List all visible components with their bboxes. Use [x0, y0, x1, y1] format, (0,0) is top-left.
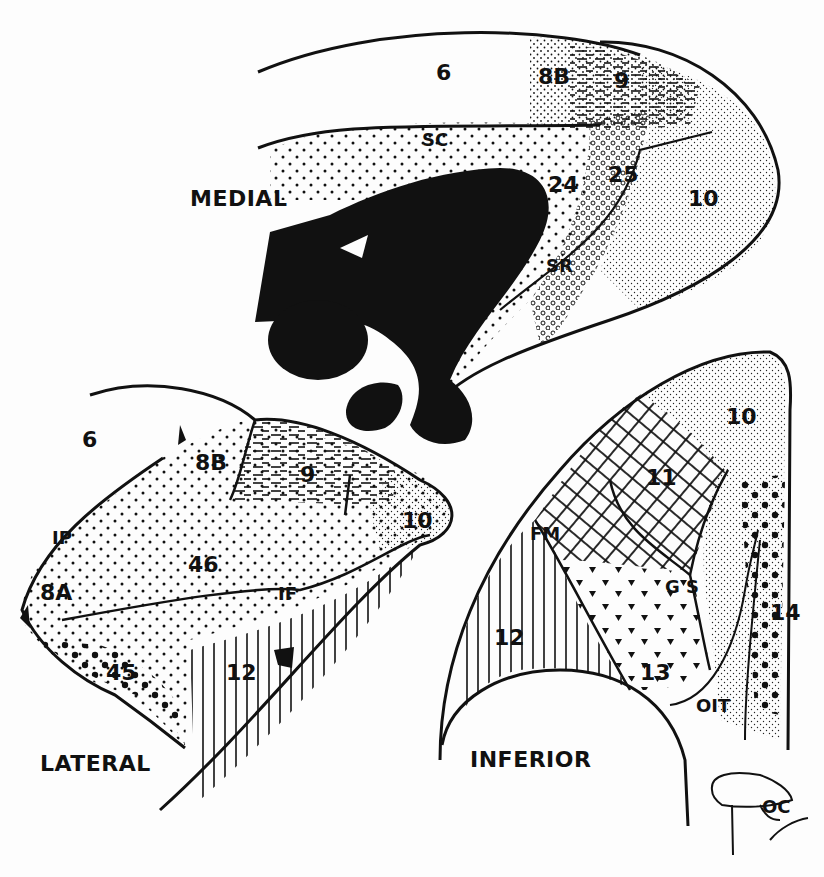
- view-label-inferior: INFERIOR: [470, 747, 591, 772]
- label-area-12-inferior: 12: [494, 625, 525, 650]
- label-sulcus-sr: SR: [546, 255, 573, 276]
- label-area-46-lateral: 46: [188, 552, 219, 577]
- brain-areas-diagram: 6 8B 9 24 25 10 SC SR MEDIAL 6 8B 9 10 8…: [0, 0, 824, 877]
- label-area-10-medial: 10: [688, 186, 719, 211]
- label-area-24-medial: 24: [548, 172, 579, 197]
- label-sulcus-if: IF: [278, 583, 297, 604]
- label-area-14-inferior: 14: [770, 600, 801, 625]
- view-label-medial: MEDIAL: [190, 186, 287, 211]
- label-area-8b-medial: 8B: [538, 64, 570, 89]
- label-sulcus-oit: OIT: [696, 695, 731, 716]
- label-sulcus-fm: FM: [530, 523, 560, 544]
- optic-region: [346, 382, 402, 431]
- view-label-lateral: LATERAL: [40, 751, 151, 776]
- label-area-10-lateral: 10: [402, 508, 433, 533]
- label-sulcus-gs: G S: [665, 576, 699, 597]
- label-optic-chiasm: OC: [762, 796, 791, 817]
- label-area-9-medial: 9: [614, 68, 629, 93]
- lateral-view: 6 8B 9 10 8A 46 45 12 IP IF LATERAL: [20, 386, 452, 810]
- anterior-commissure: [268, 300, 368, 380]
- label-area-11-inferior: 11: [646, 465, 677, 490]
- label-area-10-inferior: 10: [726, 404, 757, 429]
- label-area-6-medial: 6: [436, 60, 451, 85]
- label-area-45-lateral: 45: [106, 660, 137, 685]
- label-area-12-lateral: 12: [226, 660, 257, 685]
- label-area-9-lateral: 9: [300, 462, 315, 487]
- label-area-8a-lateral: 8A: [40, 580, 72, 605]
- label-sulcus-ip: IP: [52, 527, 72, 548]
- label-area-6-lateral: 6: [82, 427, 97, 452]
- label-area-13-inferior: 13: [640, 660, 671, 685]
- label-area-25-medial: 25: [608, 162, 639, 187]
- label-sulcus-sc: SC: [422, 129, 448, 150]
- inferior-view: 10 11 12 13 14 FM G S OIT OC INFERIOR: [440, 352, 808, 855]
- label-area-8b-lateral: 8B: [195, 450, 227, 475]
